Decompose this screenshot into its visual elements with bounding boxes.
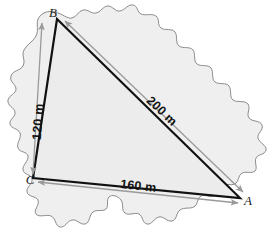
dimension-label-120m: 120 m [30,103,47,140]
vertex-label-A: A [243,193,252,208]
survey-diagram: 120 m 200 m 160 m B C A [0,0,272,237]
diagram-canvas: 120 m 200 m 160 m B C A [0,0,272,237]
vertex-label-C: C [26,172,35,187]
vertex-label-B: B [49,5,57,20]
